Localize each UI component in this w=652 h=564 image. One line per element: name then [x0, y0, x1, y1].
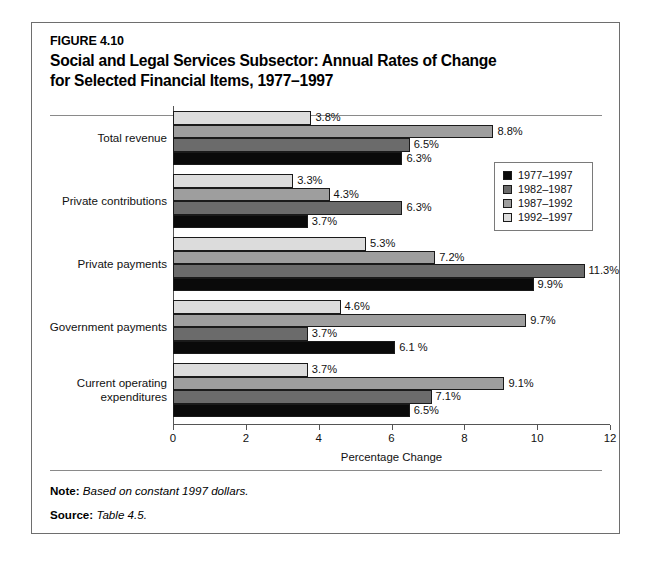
x-axis-tick — [392, 425, 393, 430]
figure-container: FIGURE 4.10 Social and Legal Services Su… — [31, 22, 620, 534]
bar-value-label: 3.7% — [312, 215, 337, 229]
bar-value-label: 11.3% — [589, 264, 620, 278]
bar-value-label: 4.6% — [345, 300, 370, 314]
legend-swatch — [503, 171, 512, 180]
x-axis-tick-label: 2 — [243, 432, 249, 444]
bar-value-label: 6.1 % — [399, 341, 427, 355]
x-axis-tick-label: 12 — [604, 432, 617, 444]
legend-label: 1982–1987 — [518, 183, 573, 195]
x-axis-tick — [246, 425, 247, 430]
note-line: Note: Based on constant 1997 dollars. — [50, 484, 249, 497]
chart-legend: 1977–19971982–19871987–19921992–1997 — [494, 162, 593, 231]
bar — [173, 264, 585, 278]
legend-swatch — [503, 199, 512, 208]
bar-value-label: 6.3% — [406, 201, 431, 215]
bar — [173, 237, 366, 251]
bar — [173, 138, 410, 152]
bar — [173, 188, 330, 202]
bar-value-label: 6.5% — [414, 404, 439, 418]
legend-label: 1977–1997 — [518, 169, 573, 181]
bar-value-label: 8.8% — [497, 125, 522, 139]
bar — [173, 363, 308, 377]
bar-value-label: 9.1% — [508, 377, 533, 391]
bar — [173, 327, 308, 341]
bar — [173, 201, 402, 215]
category-label: Total revenue — [37, 131, 167, 146]
bar-value-label: 3.3% — [297, 174, 322, 188]
source-line: Source: Table 4.5. — [50, 508, 147, 521]
bar-value-label: 6.5% — [414, 138, 439, 152]
x-axis-tick-label: 0 — [170, 432, 176, 444]
source-label: Source: — [50, 508, 93, 521]
x-axis-title: Percentage Change — [173, 451, 610, 463]
bar — [173, 174, 293, 188]
x-axis-tick — [610, 425, 611, 430]
bar-value-label: 9.9% — [538, 278, 563, 292]
note-label: Note: — [50, 484, 80, 497]
legend-item: 1992–1997 — [503, 210, 585, 224]
x-axis-tick — [319, 425, 320, 430]
bar — [173, 300, 341, 314]
bar-value-label: 3.7% — [312, 363, 337, 377]
legend-swatch — [503, 213, 512, 222]
x-axis-tick-label: 10 — [531, 432, 544, 444]
bar-value-label: 3.8% — [315, 111, 340, 125]
bar — [173, 390, 432, 404]
bar-value-label: 3.7% — [312, 327, 337, 341]
bar-value-label: 7.1% — [436, 390, 461, 404]
bar — [173, 404, 410, 418]
bar — [173, 278, 534, 292]
legend-item: 1987–1992 — [503, 196, 585, 210]
bar-value-label: 4.3% — [334, 188, 359, 202]
category-label: Private contributions — [37, 194, 167, 209]
legend-label: 1987–1992 — [518, 197, 573, 209]
x-axis-tick-label: 8 — [461, 432, 467, 444]
note-text: Based on constant 1997 dollars. — [83, 484, 249, 497]
legend-item: 1977–1997 — [503, 168, 585, 182]
x-axis-tick — [173, 425, 174, 430]
legend-swatch — [503, 185, 512, 194]
bar — [173, 152, 402, 166]
x-axis-tick-label: 4 — [315, 432, 321, 444]
x-axis-tick — [464, 425, 465, 430]
legend-item: 1982–1987 — [503, 182, 585, 196]
category-label: Private payments — [37, 257, 167, 272]
bar — [173, 111, 311, 125]
bar — [173, 251, 435, 265]
bar — [173, 341, 395, 355]
bar-value-label: 9.7% — [530, 314, 555, 328]
category-label: Government payments — [37, 320, 167, 335]
footer-divider — [50, 470, 602, 471]
bar-value-label: 6.3% — [406, 152, 431, 166]
bar — [173, 215, 308, 229]
source-text: Table 4.5. — [96, 508, 147, 521]
bar-value-label: 5.3% — [370, 237, 395, 251]
x-axis-tick-label: 6 — [388, 432, 394, 444]
x-axis-tick — [537, 425, 538, 430]
legend-label: 1992–1997 — [518, 211, 573, 223]
bar — [173, 125, 493, 139]
category-label: Current operating expenditures — [37, 376, 167, 405]
bar — [173, 314, 526, 328]
bar — [173, 377, 504, 391]
chart-plot-area: 024681012 Percentage Change Total revenu… — [32, 23, 621, 535]
bar-value-label: 7.2% — [439, 251, 464, 265]
